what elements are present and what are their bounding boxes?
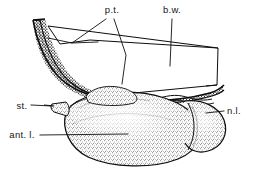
label-bw: b.w. [163,4,181,15]
label-nl: n.l. [227,105,241,116]
pituitary-diagram-figure: p.t. b.w. st. n.l. ant. l. [0,0,253,172]
anatomical-line-drawing: p.t. b.w. st. n.l. ant. l. [0,0,253,172]
label-st: st. [17,100,28,111]
label-ant-l: ant. l. [9,129,34,140]
label-pt: p.t. [105,4,119,15]
